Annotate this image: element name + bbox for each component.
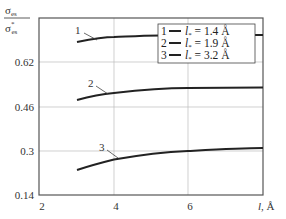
x-axis-label: l, Å	[258, 200, 275, 212]
x-tick-2: 2	[39, 200, 45, 212]
y-tick-0.14: 0.14	[15, 189, 35, 201]
leader-2	[96, 86, 108, 94]
y-tick-0.46: 0.46	[15, 101, 35, 113]
y-tick-0.3: 0.3	[20, 145, 34, 157]
y-axis-label: σes σ*es	[4, 4, 30, 36]
curve-label-2: 2	[88, 77, 94, 89]
y-tick-0.62: 0.62	[15, 56, 34, 68]
svg-text:2: 2	[161, 37, 167, 49]
svg-text:3: 3	[161, 49, 167, 61]
svg-text:σes: σes	[5, 4, 17, 18]
svg-text:σ*es: σ*es	[5, 20, 18, 36]
legend: 1 l* = 1.4 Å 2 l* = 1.9 Å 3 l* = 3.2 Å	[158, 24, 255, 63]
x-tick-6: 6	[187, 200, 193, 212]
curve-2	[77, 88, 263, 101]
chart: 1 2 3 0.62 0.46 0.3 0.14 2 4 6 l, Å σes …	[0, 0, 286, 219]
x-tick-4: 4	[113, 200, 119, 212]
curve-label-1: 1	[75, 24, 81, 36]
curve-label-3: 3	[99, 141, 105, 153]
svg-text:l* = 3.2 Å: l* = 3.2 Å	[185, 48, 230, 63]
svg-text:1: 1	[161, 25, 167, 37]
